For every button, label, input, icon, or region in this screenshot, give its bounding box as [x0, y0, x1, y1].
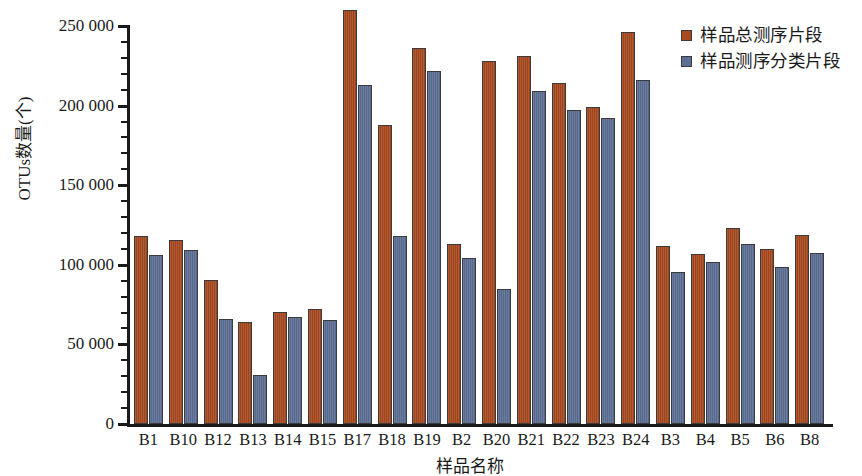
bar-classified-reads: [532, 91, 546, 424]
bar-total-reads: [134, 236, 148, 424]
bar-total-reads: [273, 312, 287, 424]
y-axis-minor-tick: [121, 407, 128, 409]
bar-classified-reads: [706, 262, 720, 424]
bar-total-reads: [691, 254, 705, 424]
y-axis-minor-tick: [121, 121, 128, 123]
bar-classified-reads: [393, 236, 407, 424]
bar-group: [134, 8, 163, 424]
bar-classified-reads: [462, 258, 476, 424]
y-axis-minor-tick: [121, 89, 128, 91]
bar-total-reads: [552, 83, 566, 424]
bar-total-reads: [238, 322, 252, 424]
y-axis-minor-tick: [121, 375, 128, 377]
bar-group: [273, 8, 302, 424]
bar-group: [447, 8, 476, 424]
bar-classified-reads: [810, 253, 824, 424]
bar-group: [586, 8, 615, 424]
y-axis-minor-tick: [121, 359, 128, 361]
y-axis-minor-tick: [121, 312, 128, 314]
y-axis-minor-tick: [121, 296, 128, 298]
bar-group: [169, 8, 198, 424]
bar-classified-reads: [741, 244, 755, 424]
bar-classified-reads: [775, 267, 789, 424]
x-axis-line: [127, 424, 833, 427]
y-axis-minor-tick: [121, 232, 128, 234]
y-axis-minor-tick: [121, 248, 128, 250]
bar-group: [621, 8, 650, 424]
bar-total-reads: [621, 32, 635, 424]
bar-total-reads: [482, 61, 496, 424]
y-axis-tick-label: 100 000: [24, 256, 114, 273]
bar-group: [412, 8, 441, 424]
bar-classified-reads: [636, 80, 650, 424]
bar-classified-reads: [497, 289, 511, 424]
y-axis-minor-tick: [121, 152, 128, 154]
y-axis-tick-label: 0: [24, 415, 114, 432]
y-axis-tick-label: 250 000: [24, 17, 114, 34]
x-axis-title: 样品名称: [0, 452, 862, 476]
bar-classified-reads: [567, 110, 581, 424]
legend-label: 样品测序分类片段: [700, 51, 840, 71]
bar-group: [482, 8, 511, 424]
chart-legend: 样品总测序片段样品测序分类片段: [681, 22, 861, 74]
y-axis-minor-tick: [121, 136, 128, 138]
bar-group: [343, 8, 372, 424]
bar-classified-reads: [253, 375, 267, 424]
bar-total-reads: [378, 125, 392, 424]
y-axis-major-tick: [118, 343, 128, 346]
bar-total-reads: [795, 235, 809, 424]
bar-total-reads: [760, 249, 774, 424]
bar-classified-reads: [358, 85, 372, 424]
bar-total-reads: [517, 56, 531, 424]
bar-total-reads: [308, 309, 322, 424]
bar-total-reads: [726, 228, 740, 424]
bar-total-reads: [343, 10, 357, 424]
y-axis-minor-tick: [121, 41, 128, 43]
x-axis-tick-label: B8: [787, 430, 833, 449]
y-axis-minor-tick: [121, 216, 128, 218]
y-axis-tick-label: 50 000: [24, 335, 114, 352]
bar-classified-reads: [427, 71, 441, 424]
bar-classified-reads: [288, 317, 302, 424]
bar-classified-reads: [149, 255, 163, 424]
bar-total-reads: [204, 280, 218, 424]
bar-group: [238, 8, 267, 424]
y-axis-tick-labels: 050 000100 000150 000200 000250 000: [24, 0, 114, 476]
y-axis-major-tick: [118, 105, 128, 108]
y-axis-tick-label: 200 000: [24, 97, 114, 114]
y-axis-minor-tick: [121, 200, 128, 202]
bar-total-reads: [169, 240, 183, 424]
y-axis-minor-tick: [121, 73, 128, 75]
legend-swatch-icon: [681, 56, 692, 67]
y-axis-major-tick: [118, 264, 128, 267]
legend-item: 样品测序分类片段: [681, 48, 861, 74]
bar-total-reads: [447, 244, 461, 424]
bar-classified-reads: [219, 319, 233, 424]
bar-group: [552, 8, 581, 424]
bar-group: [517, 8, 546, 424]
y-axis-minor-tick: [121, 391, 128, 393]
y-axis-minor-tick: [121, 57, 128, 59]
bar-classified-reads: [671, 272, 685, 424]
legend-swatch-icon: [681, 30, 692, 41]
y-axis-major-tick: [118, 25, 128, 28]
bar-group: [378, 8, 407, 424]
legend-item: 样品总测序片段: [681, 22, 861, 48]
bar-classified-reads: [184, 250, 198, 424]
y-axis-tick-label: 150 000: [24, 176, 114, 193]
y-axis-major-tick: [118, 184, 128, 187]
bar-classified-reads: [323, 320, 337, 424]
bar-group: [204, 8, 233, 424]
bar-classified-reads: [601, 118, 615, 424]
legend-label: 样品总测序片段: [700, 25, 823, 45]
y-axis-minor-tick: [121, 168, 128, 170]
bar-total-reads: [656, 246, 670, 424]
y-axis-minor-tick: [121, 327, 128, 329]
bar-group: [308, 8, 337, 424]
bar-chart-figure: OTUs数量(个) 050 000100 000150 000200 00025…: [0, 0, 862, 476]
y-axis-minor-tick: [121, 280, 128, 282]
bar-total-reads: [586, 107, 600, 424]
bar-total-reads: [412, 48, 426, 424]
